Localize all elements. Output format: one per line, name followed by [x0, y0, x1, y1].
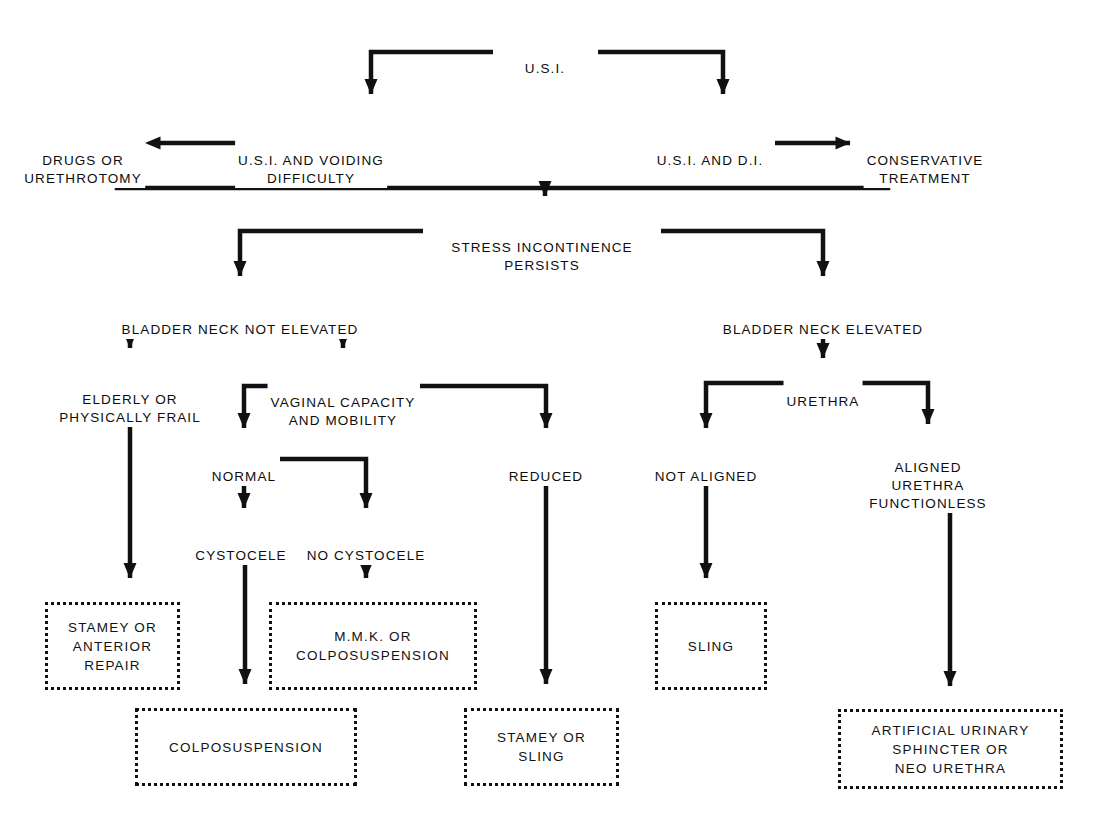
- node-aligned-urethra-functionless: ALIGNED URETHRA FUNCTIONLESS: [843, 441, 1014, 513]
- node-urethra-label: URETHRA: [787, 394, 860, 409]
- node-normal-label: NORMAL: [212, 469, 276, 484]
- node-drugs-or-urethrotomy-label: DRUGS OR URETHROTOMY: [24, 153, 142, 186]
- node-normal: NORMAL: [209, 450, 279, 486]
- node-usi-and-voiding-difficulty-label: U.S.I. AND VOIDING DIFFICULTY: [238, 153, 384, 186]
- outcome-box-artificial-urinary-sphincter-label: ARTIFICIAL URINARY SPHINCTER OR NEO URET…: [872, 721, 1030, 778]
- node-elderly-or-physically-frail: ELDERLY OR PHYSICALLY FRAIL: [56, 373, 204, 427]
- node-no-cystocele: NO CYSTOCELE: [304, 529, 429, 565]
- outcome-box-sling: SLING: [655, 602, 767, 690]
- outcome-box-colposuspension: COLPOSUSPENSION: [135, 708, 357, 786]
- node-cystocele: CYSTOCELE: [192, 529, 289, 565]
- outcome-box-colposuspension-label: COLPOSUSPENSION: [169, 738, 323, 757]
- node-conservative-treatment: CONSERVATIVE TREATMENT: [864, 134, 987, 188]
- node-bladder-neck-not-elevated: BLADDER NECK NOT ELEVATED: [119, 303, 362, 339]
- outcome-box-sling-label: SLING: [688, 637, 735, 656]
- node-usi: U.S.I.: [522, 42, 568, 78]
- node-no-cystocele-label: NO CYSTOCELE: [307, 548, 426, 563]
- node-not-aligned: NOT ALIGNED: [652, 450, 761, 486]
- outcome-box-stamey-or-anterior-repair: STAMEY OR ANTERIOR REPAIR: [45, 602, 180, 690]
- node-vaginal-capacity-and-mobility: VAGINAL CAPACITY AND MOBILITY: [268, 376, 419, 430]
- node-drugs-or-urethrotomy: DRUGS OR URETHROTOMY: [21, 134, 145, 188]
- flowchart-page: U.S.I. U.S.I. AND VOIDING DIFFICULTY DRU…: [0, 0, 1099, 818]
- node-not-aligned-label: NOT ALIGNED: [655, 469, 758, 484]
- node-aligned-urethra-functionless-label: ALIGNED URETHRA FUNCTIONLESS: [869, 460, 986, 511]
- node-bladder-neck-elevated-label: BLADDER NECK ELEVATED: [723, 322, 923, 337]
- outcome-box-stamey-or-sling-label: STAMEY OR SLING: [497, 728, 586, 766]
- node-stress-incontinence-persists-label: STRESS INCONTINENCE PERSISTS: [451, 240, 632, 273]
- outcome-box-mmk-or-colposuspension: M.M.K. OR COLPOSUSPENSION: [269, 602, 477, 690]
- node-conservative-treatment-label: CONSERVATIVE TREATMENT: [867, 153, 984, 186]
- node-usi-and-di-label: U.S.I. AND D.I.: [657, 153, 764, 168]
- node-bladder-neck-elevated: BLADDER NECK ELEVATED: [720, 303, 926, 339]
- outcome-box-artificial-urinary-sphincter: ARTIFICIAL URINARY SPHINCTER OR NEO URET…: [838, 709, 1063, 789]
- node-bladder-neck-not-elevated-label: BLADDER NECK NOT ELEVATED: [122, 322, 359, 337]
- node-elderly-or-physically-frail-label: ELDERLY OR PHYSICALLY FRAIL: [59, 392, 201, 425]
- outcome-box-mmk-or-colposuspension-label: M.M.K. OR COLPOSUSPENSION: [296, 627, 450, 665]
- node-reduced-label: REDUCED: [509, 469, 583, 484]
- outcome-box-stamey-or-anterior-repair-label: STAMEY OR ANTERIOR REPAIR: [68, 618, 157, 675]
- outcome-box-stamey-or-sling: STAMEY OR SLING: [464, 708, 619, 786]
- node-vaginal-capacity-and-mobility-label: VAGINAL CAPACITY AND MOBILITY: [271, 395, 416, 428]
- node-usi-and-voiding-difficulty: U.S.I. AND VOIDING DIFFICULTY: [235, 134, 387, 188]
- node-cystocele-label: CYSTOCELE: [195, 548, 286, 563]
- node-reduced: REDUCED: [506, 450, 586, 486]
- node-stress-incontinence-persists: STRESS INCONTINENCE PERSISTS: [448, 221, 635, 275]
- node-urethra: URETHRA: [784, 375, 863, 411]
- node-usi-and-di: U.S.I. AND D.I.: [654, 134, 767, 170]
- node-usi-label: U.S.I.: [525, 61, 565, 76]
